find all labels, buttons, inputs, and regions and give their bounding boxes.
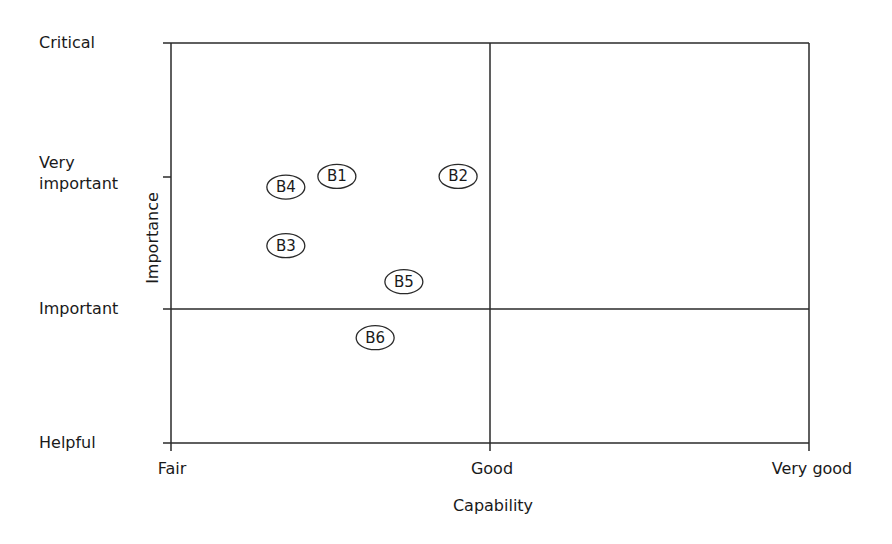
y-tick-very: Very xyxy=(39,153,75,172)
x-tick-very-good: Very good xyxy=(772,459,853,478)
x-tick-good: Good xyxy=(471,459,513,478)
data-point-b2: B2 xyxy=(439,164,477,188)
data-point-b4: B4 xyxy=(267,175,305,199)
x-axis-label: Capability xyxy=(453,496,533,515)
data-point-b1: B1 xyxy=(318,164,356,188)
data-point-b3: B3 xyxy=(267,234,305,258)
capability-importance-chart: Critical Very important Important Helpfu… xyxy=(0,0,892,544)
data-points: B1B2B3B4B5B6 xyxy=(267,164,477,349)
point-label: B5 xyxy=(394,273,414,291)
data-point-b6: B6 xyxy=(356,326,394,350)
y-tick-helpful: Helpful xyxy=(39,433,96,452)
point-label: B6 xyxy=(365,329,385,347)
y-tick-very-important: important xyxy=(39,174,118,193)
point-label: B4 xyxy=(276,178,296,196)
y-tick-critical: Critical xyxy=(39,33,95,52)
plot-frame xyxy=(163,43,809,451)
y-tick-important: Important xyxy=(39,299,118,318)
point-label: B2 xyxy=(448,167,468,185)
x-tick-fair: Fair xyxy=(158,459,187,478)
data-point-b5: B5 xyxy=(385,270,423,294)
point-label: B3 xyxy=(276,237,296,255)
y-axis-label: Importance xyxy=(143,192,162,284)
point-label: B1 xyxy=(327,167,347,185)
